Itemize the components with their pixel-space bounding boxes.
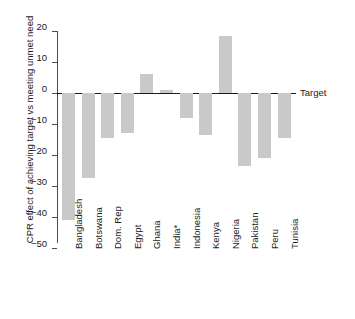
bar xyxy=(101,93,114,138)
bar-chart: CPR effect of achieving target vs meetin… xyxy=(0,0,355,319)
bar xyxy=(160,90,173,93)
x-category-label: Ghana xyxy=(151,220,162,249)
y-tick-mark xyxy=(52,217,57,218)
y-tick-mark xyxy=(52,186,57,187)
y-axis-line xyxy=(57,31,58,243)
x-category-label: Peru xyxy=(269,229,280,249)
x-category-label: Dom. Rep xyxy=(112,206,123,249)
x-category-label: India* xyxy=(171,225,182,249)
y-tick-mark xyxy=(52,155,57,156)
y-tick-label: −40 xyxy=(7,212,47,213)
bar xyxy=(258,93,271,158)
x-category-label: Pakistan xyxy=(249,213,260,249)
y-tick-mark xyxy=(52,31,57,32)
y-tick-mark xyxy=(52,248,57,249)
y-tick-label: −30 xyxy=(7,181,47,182)
y-tick-mark xyxy=(52,124,57,125)
y-tick-label: 10 xyxy=(7,57,47,58)
y-tick-label: −20 xyxy=(7,150,47,151)
bar xyxy=(180,93,193,118)
x-category-label: Indonesia xyxy=(191,208,202,249)
bar xyxy=(278,93,291,138)
bar xyxy=(219,36,232,93)
bar xyxy=(199,93,212,135)
bar xyxy=(140,74,153,93)
bar xyxy=(238,93,251,166)
y-tick-label: −50 xyxy=(7,243,47,244)
x-category-label: Botswana xyxy=(93,207,104,249)
x-category-label: Tunisia xyxy=(289,219,300,249)
y-tick-label: 20 xyxy=(7,26,47,27)
y-tick-mark xyxy=(52,62,57,63)
x-category-label: Kenya xyxy=(210,222,221,249)
bar xyxy=(121,93,134,133)
x-category-label: Egypt xyxy=(132,225,143,249)
y-tick-label: −10 xyxy=(7,119,47,120)
target-annotation-label: Target xyxy=(300,87,326,98)
bar xyxy=(82,93,95,178)
x-category-label: Nigeria xyxy=(230,219,241,249)
y-tick-label: 0 xyxy=(7,88,47,89)
x-category-label: Bangladesh xyxy=(73,199,84,249)
